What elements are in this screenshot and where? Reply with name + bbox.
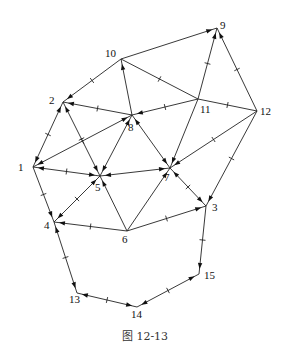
edge-tick-mark — [167, 288, 170, 293]
edge-tick-mark — [90, 78, 94, 83]
edge-tick-mark — [212, 137, 215, 142]
node-label-8: 8 — [128, 121, 134, 133]
node-label-9: 9 — [220, 19, 226, 31]
edge-15-3 — [198, 206, 206, 274]
edge-10-11 — [121, 59, 198, 99]
network-graph: 123456789101112131415 — [0, 0, 290, 350]
edge-1-4 — [33, 167, 54, 222]
arrowhead-icon — [188, 276, 194, 281]
edge-12-7 — [170, 111, 257, 168]
edge-tick-mark — [227, 102, 228, 108]
arrowhead-icon — [105, 173, 111, 177]
node-label-3: 3 — [212, 201, 218, 213]
arrowhead-icon — [141, 300, 147, 305]
edge-5-4 — [54, 176, 100, 222]
edge-8-7 — [132, 115, 170, 168]
arrowhead-icon — [121, 64, 125, 70]
edge-2-5 — [63, 102, 100, 176]
arrowhead-icon — [72, 282, 76, 288]
edge-line — [121, 28, 217, 59]
edge-tick-mark — [97, 106, 98, 112]
node-label-2: 2 — [49, 94, 55, 106]
node-label-1: 1 — [18, 161, 24, 173]
arrowhead-icon — [56, 107, 61, 113]
edges-layer — [33, 28, 257, 307]
arrowhead-icon — [67, 94, 73, 99]
edge-tick-mark — [90, 224, 91, 230]
arrowhead-icon — [137, 110, 143, 114]
edge-9-11 — [198, 28, 217, 99]
node-label-10: 10 — [105, 47, 117, 59]
edge-13-14 — [77, 293, 137, 307]
arrowhead-icon — [93, 165, 98, 171]
arrowhead-icon — [35, 156, 40, 162]
edge-line — [170, 99, 198, 168]
arrowhead-icon — [172, 157, 176, 163]
arrowhead-icon — [65, 106, 70, 112]
edge-10-8 — [121, 59, 132, 115]
edge-14-15 — [137, 274, 199, 307]
node-labels-layer: 123456789101112131415 — [18, 19, 271, 320]
edge-tick-mark — [66, 169, 67, 175]
arrowhead-icon — [174, 160, 180, 165]
arrowhead-icon — [135, 119, 140, 125]
node-label-13: 13 — [69, 293, 81, 305]
edge-tick-mark — [229, 157, 234, 160]
edge-1-5 — [33, 166, 100, 176]
arrowhead-icon — [48, 211, 52, 217]
edge-5-6 — [100, 176, 127, 231]
edge-7-3 — [170, 168, 206, 206]
arrowhead-icon — [195, 207, 201, 211]
node-label-14: 14 — [131, 308, 143, 320]
edge-2-8 — [63, 102, 132, 115]
arrowhead-icon — [121, 117, 127, 122]
arrowhead-icon — [212, 33, 216, 39]
arrowhead-icon — [102, 180, 107, 186]
node-label-11: 11 — [200, 103, 211, 115]
edge-5-7 — [100, 167, 170, 177]
edge-4-13 — [54, 222, 77, 293]
node-label-5: 5 — [95, 181, 101, 193]
arrowhead-icon — [38, 166, 44, 170]
edge-11-7 — [170, 99, 198, 168]
node-label-4: 4 — [44, 219, 50, 231]
edge-9-12 — [217, 28, 257, 111]
node-label-15: 15 — [204, 269, 216, 281]
edge-4-6 — [54, 221, 127, 231]
arrowhead-icon — [89, 172, 95, 176]
edge-6-3 — [127, 206, 206, 231]
arrowhead-icon — [37, 160, 43, 165]
arrowhead-icon — [219, 33, 224, 39]
arrowhead-icon — [206, 29, 212, 33]
node-label-7: 7 — [164, 171, 170, 183]
edge-10-9 — [121, 28, 217, 59]
arrowhead-icon — [198, 263, 202, 269]
edge-12-3 — [206, 111, 257, 206]
edge-tick-mark — [200, 240, 206, 241]
node-label-12: 12 — [260, 105, 271, 117]
arrowhead-icon — [162, 158, 167, 164]
node-label-6: 6 — [122, 233, 128, 245]
arrowhead-icon — [102, 165, 107, 171]
edge-8-11 — [132, 99, 198, 115]
figure-caption: 图 12-13 — [0, 327, 290, 343]
arrowhead-icon — [59, 221, 65, 225]
arrowhead-icon — [55, 227, 59, 233]
arrowhead-icon — [68, 102, 74, 106]
edge-2-10 — [63, 59, 121, 102]
edge-1-2 — [33, 102, 63, 167]
